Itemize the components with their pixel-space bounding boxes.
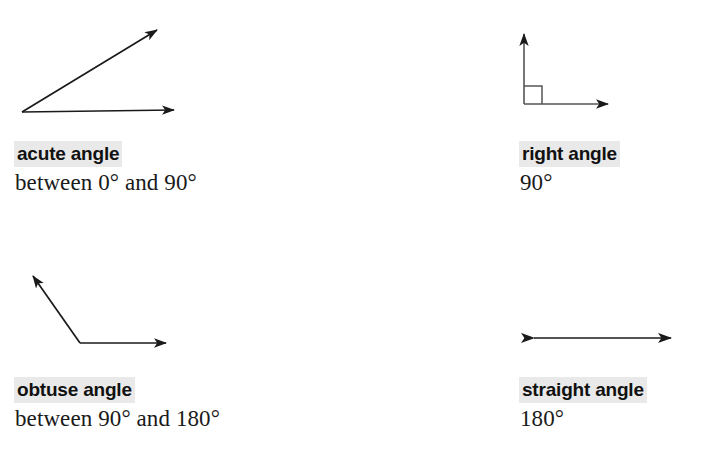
right-angle-term: right angle <box>519 141 620 167</box>
acute-angle-description: between 0° and 90° <box>15 170 197 196</box>
obtuse-angle-diagram <box>18 260 208 365</box>
acute-lower-ray <box>22 110 174 112</box>
acute-angle-term: acute angle <box>14 141 122 167</box>
right-angle-square-marker <box>524 86 542 104</box>
straight-angle-diagram <box>516 325 701 355</box>
obtuse-upper-ray <box>33 276 80 343</box>
angle-types-chart: acute angle between 0° and 90° <box>0 0 704 460</box>
acute-angle-diagram <box>14 16 214 131</box>
obtuse-angle-term: obtuse angle <box>14 377 135 403</box>
obtuse-angle-description: between 90° and 180° <box>15 406 220 432</box>
straight-angle-term: straight angle <box>519 377 647 403</box>
straight-angle-description: 180° <box>520 406 564 432</box>
right-angle-description: 90° <box>520 170 553 196</box>
right-angle-diagram <box>516 16 636 131</box>
acute-upper-ray <box>22 30 157 112</box>
